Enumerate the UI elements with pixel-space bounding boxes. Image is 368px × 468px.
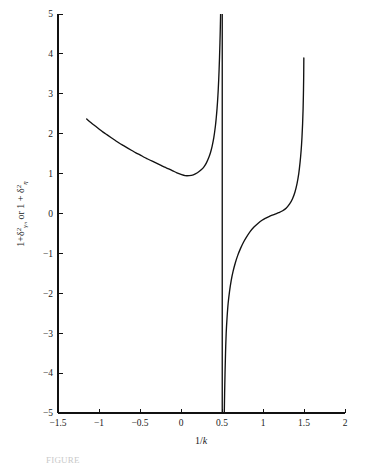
x-tick-label: 0	[179, 418, 184, 428]
y-tick-label: 4	[48, 49, 53, 59]
y-axis-title: 1+δ2γₙ or 1 + δ2η	[15, 181, 30, 247]
x-tick-label: 2	[343, 418, 348, 428]
x-axis-label: 1/k	[195, 435, 208, 446]
x-tick-label: 1	[261, 418, 266, 428]
chart-canvas: −1.5−1−0.500.511.52 −5−4−3−2−1012345 1/k…	[0, 0, 368, 468]
x-tick-label: 1.5	[298, 418, 310, 428]
x-tick-label: −0.5	[131, 418, 148, 428]
x-tick-label: −1	[94, 418, 104, 428]
y-axis-label: 1+δ2γₙ or 1 + δ2η	[15, 181, 30, 247]
y-tick-label: −5	[43, 408, 53, 418]
curve-branch-right	[224, 58, 304, 413]
x-axis-title: 1/k	[195, 435, 208, 446]
y-tick-label: 5	[48, 9, 53, 19]
y-tick-label: −1	[43, 249, 53, 259]
y-tick-label: −2	[43, 289, 53, 299]
y-tick-label: 2	[48, 129, 53, 139]
x-tick-label: −1.5	[49, 418, 66, 428]
y-tick-label: 0	[48, 209, 53, 219]
y-tick-label: −3	[43, 329, 53, 339]
x-tick-label: 0.5	[216, 418, 228, 428]
figure-caption: FIGURE	[46, 455, 326, 466]
curve-branch-left	[87, 14, 221, 176]
y-axis-ticks: −5−4−3−2−1012345	[43, 9, 63, 418]
data-curves	[87, 14, 304, 413]
y-tick-label: 3	[48, 89, 53, 99]
x-axis-ticks: −1.5−1−0.500.511.52	[49, 409, 347, 429]
figure-container: −1.5−1−0.500.511.52 −5−4−3−2−1012345 1/k…	[0, 0, 368, 468]
y-tick-label: 1	[48, 169, 53, 179]
y-tick-label: −4	[43, 368, 53, 378]
axes-frame	[58, 14, 345, 413]
